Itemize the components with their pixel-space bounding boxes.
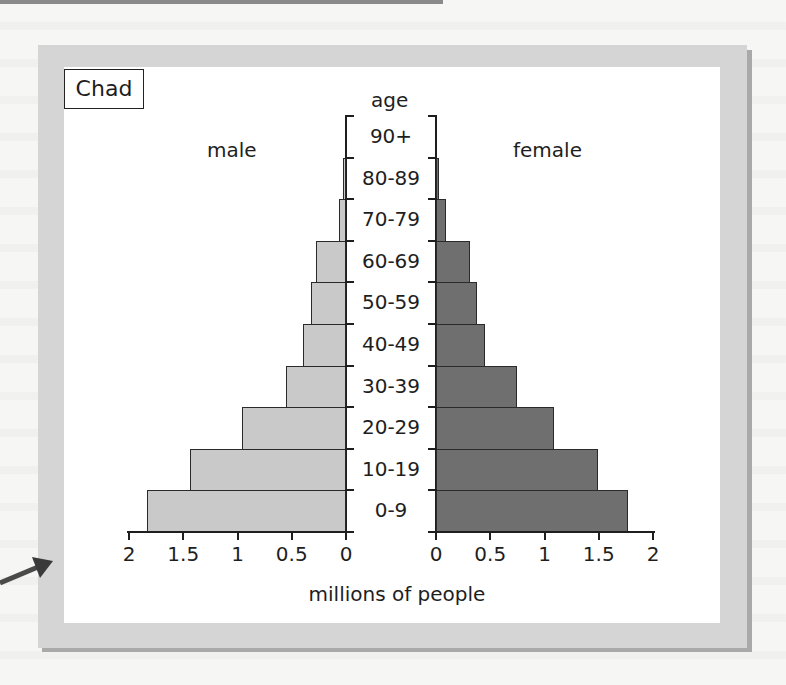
age-group-label: 40-49	[346, 324, 436, 365]
x-tick	[435, 532, 437, 540]
age-group-label: 70-79	[346, 199, 436, 240]
row-tick	[428, 406, 437, 408]
row-tick	[428, 198, 437, 200]
male-x-tick-label: 2	[109, 542, 149, 566]
row-tick	[345, 115, 354, 117]
y-axis-title: age	[371, 88, 408, 112]
row-tick	[345, 489, 354, 491]
male-series-label: male	[207, 138, 257, 162]
row-tick	[428, 281, 437, 283]
female-bar	[436, 366, 517, 409]
female-bar	[436, 241, 470, 284]
row-tick	[345, 157, 354, 159]
x-tick	[345, 532, 347, 540]
row-tick	[428, 448, 437, 450]
row-tick	[428, 323, 437, 325]
x-tick	[128, 532, 130, 540]
age-group-label: 60-69	[346, 241, 436, 282]
pointer-arrow-icon	[0, 545, 60, 595]
row-tick	[345, 281, 354, 283]
row-tick	[345, 323, 354, 325]
female-x-tick-label: 1	[525, 542, 565, 566]
age-group-label: 30-39	[346, 366, 436, 407]
female-bar	[436, 282, 477, 325]
male-bar	[190, 449, 346, 492]
x-tick	[182, 532, 184, 540]
x-tick	[291, 532, 293, 540]
male-bar	[303, 324, 346, 367]
age-group-label: 10-19	[346, 449, 436, 490]
country-title: Chad	[64, 69, 144, 109]
female-bar	[436, 324, 485, 367]
row-tick	[428, 240, 437, 242]
x-tick	[652, 532, 654, 540]
female-bar	[436, 199, 446, 242]
row-tick	[428, 115, 437, 117]
top-edge-strip	[0, 0, 443, 4]
x-tick	[544, 532, 546, 540]
male-bar	[339, 199, 346, 242]
female-bar	[436, 449, 598, 492]
row-tick	[428, 365, 437, 367]
male-bar	[316, 241, 346, 284]
age-group-label: 20-29	[346, 407, 436, 448]
age-group-label: 0-9	[346, 490, 436, 531]
female-x-tick-label: 1.5	[579, 542, 619, 566]
male-bar	[286, 366, 346, 409]
row-tick	[345, 406, 354, 408]
female-x-tick-label: 0.5	[470, 542, 510, 566]
row-tick	[428, 157, 437, 159]
male-x-tick-label: 1	[218, 542, 258, 566]
x-tick	[237, 532, 239, 540]
male-bar	[147, 490, 346, 533]
row-tick	[345, 448, 354, 450]
row-tick	[345, 240, 354, 242]
x-axis-title: millions of people	[0, 582, 786, 606]
age-group-label: 90+	[346, 116, 436, 157]
male-bar	[311, 282, 346, 325]
age-group-label: 80-89	[346, 158, 436, 199]
female-x-tick-label: 0	[416, 542, 456, 566]
female-bar	[436, 158, 439, 201]
row-tick	[428, 489, 437, 491]
male-bar	[242, 407, 346, 450]
age-group-label: 50-59	[346, 282, 436, 323]
female-x-tick-label: 2	[633, 542, 673, 566]
female-bar	[436, 490, 628, 533]
male-x-tick-label: 0.5	[272, 542, 312, 566]
row-tick	[345, 365, 354, 367]
female-bar	[436, 407, 554, 450]
female-series-label: female	[513, 138, 582, 162]
male-x-tick-label: 0	[326, 542, 366, 566]
x-tick	[598, 532, 600, 540]
row-tick	[345, 198, 354, 200]
x-tick	[489, 532, 491, 540]
male-x-tick-label: 1.5	[163, 542, 203, 566]
